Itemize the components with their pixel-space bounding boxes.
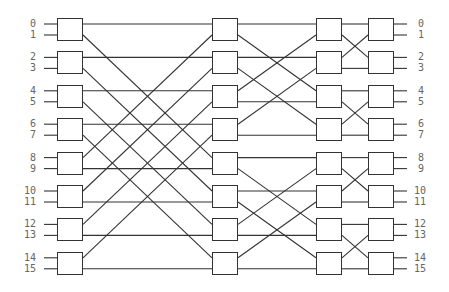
input-label-5: 5	[24, 97, 36, 107]
output-label-15: 15	[414, 264, 434, 274]
switch-stage-3-0	[316, 18, 342, 41]
switch-stage-2-6	[212, 218, 238, 241]
input-label-8: 8	[24, 153, 36, 163]
input-label-14: 14	[20, 253, 36, 263]
input-label-1: 1	[24, 30, 36, 40]
switch-stage-4-4	[368, 152, 394, 175]
output-label-10: 10	[414, 186, 434, 196]
switch-stage-2-2	[212, 85, 238, 108]
input-label-3: 3	[24, 63, 36, 73]
switch-stage-1-6	[57, 218, 83, 241]
switch-stage-1-3	[57, 118, 83, 141]
output-label-2: 2	[418, 52, 438, 62]
switch-stage-1-4	[57, 152, 83, 175]
input-label-4: 4	[24, 86, 36, 96]
switch-stage-3-5	[316, 185, 342, 208]
switch-stage-2-0	[212, 18, 238, 41]
output-label-8: 8	[418, 153, 438, 163]
switch-stage-1-7	[57, 252, 83, 275]
switch-stage-2-4	[212, 152, 238, 175]
input-label-6: 6	[24, 119, 36, 129]
input-label-9: 9	[24, 164, 36, 174]
input-label-13: 13	[20, 230, 36, 240]
switch-stage-1-5	[57, 185, 83, 208]
input-label-10: 10	[20, 186, 36, 196]
switch-stage-2-7	[212, 252, 238, 275]
output-label-5: 5	[418, 97, 438, 107]
switch-stage-2-1	[212, 51, 238, 74]
output-label-1: 1	[418, 30, 438, 40]
output-label-3: 3	[418, 63, 438, 73]
output-label-9: 9	[418, 164, 438, 174]
input-label-0: 0	[24, 19, 36, 29]
input-label-7: 7	[24, 130, 36, 140]
switch-stage-1-1	[57, 51, 83, 74]
switch-stage-4-7	[368, 252, 394, 275]
output-label-4: 4	[418, 86, 438, 96]
switch-stage-4-0	[368, 18, 394, 41]
switch-stage-2-5	[212, 185, 238, 208]
input-label-2: 2	[24, 52, 36, 62]
switch-stage-4-2	[368, 85, 394, 108]
switch-stage-4-5	[368, 185, 394, 208]
wires-layer	[0, 0, 449, 292]
switch-stage-4-3	[368, 118, 394, 141]
output-label-14: 14	[414, 253, 434, 263]
input-label-12: 12	[20, 219, 36, 229]
input-label-11: 11	[20, 197, 36, 207]
output-label-6: 6	[418, 119, 438, 129]
input-label-15: 15	[20, 264, 36, 274]
switch-stage-2-3	[212, 118, 238, 141]
output-label-12: 12	[414, 219, 434, 229]
switch-stage-3-2	[316, 85, 342, 108]
switch-stage-3-4	[316, 152, 342, 175]
switch-stage-4-1	[368, 51, 394, 74]
output-label-0: 0	[418, 19, 438, 29]
output-label-13: 13	[414, 230, 434, 240]
switch-stage-1-2	[57, 85, 83, 108]
output-label-7: 7	[418, 130, 438, 140]
network-diagram: 0123456789101112131415012345678910111213…	[0, 0, 449, 292]
output-label-11: 11	[414, 197, 434, 207]
switch-stage-4-6	[368, 218, 394, 241]
switch-stage-3-6	[316, 218, 342, 241]
switch-stage-3-3	[316, 118, 342, 141]
switch-stage-1-0	[57, 18, 83, 41]
switch-stage-3-7	[316, 252, 342, 275]
switch-stage-3-1	[316, 51, 342, 74]
